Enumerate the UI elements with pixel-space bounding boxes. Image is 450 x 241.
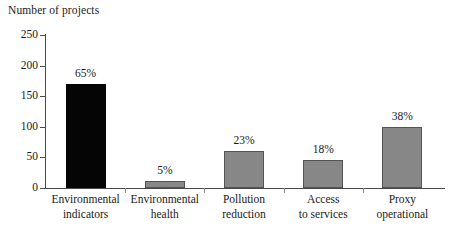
x-category-label-line: Proxy (363, 192, 442, 207)
bar (66, 84, 106, 188)
x-category-label-line: Environmental (125, 192, 204, 207)
x-category-label-line: Access (284, 192, 363, 207)
x-category-label: Proxyoperational (363, 192, 442, 222)
bar-value-label: 18% (293, 143, 353, 155)
x-category-label-line: operational (363, 207, 442, 222)
x-category-label-line: health (125, 207, 204, 222)
y-tick-label: 200 (4, 60, 38, 72)
x-category-label-line: Environmental (46, 192, 125, 207)
y-tick-mark (40, 188, 46, 189)
y-tick-label: 150 (4, 90, 38, 102)
y-axis-title: Number of projects (8, 3, 99, 17)
x-category-label: Environmentalhealth (125, 192, 204, 222)
x-category-label-line: to services (284, 207, 363, 222)
x-axis-line (45, 188, 445, 189)
bar-chart: Number of projects 050100150200250 Envir… (0, 0, 450, 241)
x-category-label-line: indicators (46, 207, 125, 222)
bar-value-label: 23% (214, 134, 274, 146)
x-category-label: Accessto services (284, 192, 363, 222)
bar (382, 127, 422, 188)
y-tick-label: 250 (4, 29, 38, 41)
y-tick-label: 0 (4, 182, 38, 194)
x-category-label: Pollutionreduction (204, 192, 283, 222)
bar (145, 181, 185, 188)
bar-value-label: 38% (372, 110, 432, 122)
x-category-label: Environmentalindicators (46, 192, 125, 222)
y-tick-label: 50 (4, 151, 38, 163)
bar (224, 151, 264, 188)
bar-value-label: 65% (56, 67, 116, 79)
y-tick-label: 100 (4, 121, 38, 133)
x-category-label-line: reduction (204, 207, 283, 222)
bar (303, 160, 343, 188)
bar-value-label: 5% (135, 164, 195, 176)
x-category-label-line: Pollution (204, 192, 283, 207)
